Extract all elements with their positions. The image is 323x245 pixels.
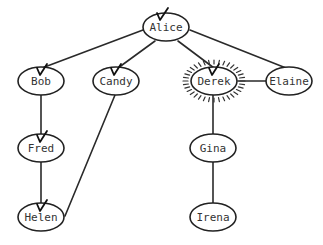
node-label: Bob bbox=[31, 75, 51, 88]
edge-alice-candy bbox=[118, 41, 155, 68]
node-elaine[interactable]: Elaine bbox=[266, 67, 312, 95]
edge-alice-bob bbox=[42, 30, 143, 68]
node-label: Alice bbox=[149, 21, 182, 34]
node-candy[interactable]: Candy bbox=[93, 64, 139, 95]
node-alice[interactable]: Alice bbox=[143, 8, 189, 41]
node-label: Irena bbox=[196, 211, 229, 224]
tree-diagram: Alice Bob Candy Derek Elaine Fred Gina H… bbox=[0, 0, 323, 245]
node-irena[interactable]: Irena bbox=[190, 203, 236, 231]
node-helen[interactable]: Helen bbox=[18, 200, 64, 231]
node-label: Derek bbox=[197, 75, 230, 88]
node-label: Elaine bbox=[269, 75, 309, 88]
node-gina[interactable]: Gina bbox=[190, 134, 236, 162]
edges bbox=[41, 30, 286, 216]
node-label: Candy bbox=[99, 75, 132, 88]
node-fred[interactable]: Fred bbox=[18, 131, 64, 162]
edge-alice-derek bbox=[178, 41, 214, 68]
node-label: Helen bbox=[24, 211, 57, 224]
node-bob[interactable]: Bob bbox=[18, 64, 64, 95]
node-label: Fred bbox=[28, 142, 55, 155]
node-derek[interactable]: Derek bbox=[191, 64, 237, 95]
node-label: Gina bbox=[200, 142, 227, 155]
edge-candy-helen bbox=[65, 95, 115, 216]
